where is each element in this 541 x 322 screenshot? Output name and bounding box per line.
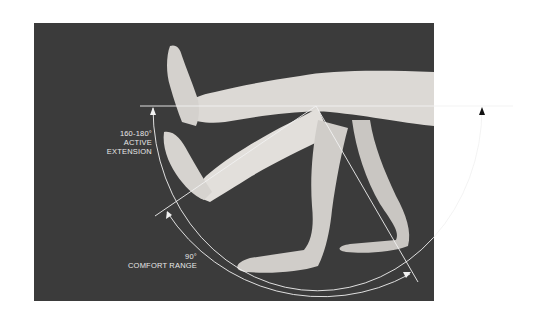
- arrowhead-extension-right: [479, 107, 485, 115]
- comfort-range-label: 90° COMFORT RANGE: [125, 252, 197, 270]
- active-extension-angle: 160-180°: [80, 129, 152, 138]
- knee-angle-diagram: [0, 0, 541, 322]
- comfort-range-angle: 90°: [125, 252, 197, 261]
- active-extension-label: 160-180° ACTIVE EXTENSION: [80, 129, 152, 156]
- comfort-range-text: COMFORT RANGE: [125, 261, 197, 270]
- active-extension-text: ACTIVE EXTENSION: [80, 138, 152, 156]
